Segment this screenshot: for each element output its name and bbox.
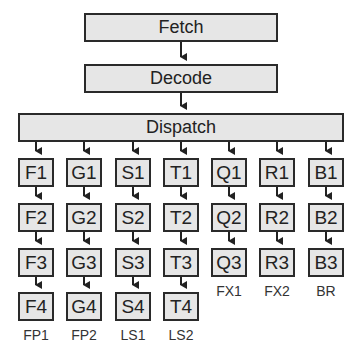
pipeline-stage-box: Q1 xyxy=(211,158,247,187)
dispatch-stage: Dispatch xyxy=(18,113,344,142)
stage-label: G1 xyxy=(71,162,96,184)
pipeline-stage-box: S4 xyxy=(115,292,151,321)
stage-label: S3 xyxy=(121,252,144,274)
pipeline-stage-box: F1 xyxy=(18,158,54,187)
pipeline-stage-box: R1 xyxy=(259,158,295,187)
pipeline-stage-box: G1 xyxy=(66,158,102,187)
unit-column-label: FX2 xyxy=(252,283,302,299)
unit-column-label: FP1 xyxy=(11,327,61,343)
pipeline-stage-box: R3 xyxy=(259,248,295,277)
pipeline-stage-box: T1 xyxy=(163,158,199,187)
stage-label: B1 xyxy=(314,162,337,184)
pipeline-stage-box: B3 xyxy=(308,248,344,277)
dispatch-label: Dispatch xyxy=(146,117,216,138)
pipeline-stage-box: B1 xyxy=(308,158,344,187)
stage-label: B3 xyxy=(314,252,337,274)
stage-label: Q2 xyxy=(216,207,241,229)
stage-label: R1 xyxy=(265,162,289,184)
stage-label: G3 xyxy=(71,252,96,274)
stage-label: G4 xyxy=(71,296,96,318)
stage-label: Q3 xyxy=(216,252,241,274)
fetch-label: Fetch xyxy=(158,17,203,38)
stage-label: F2 xyxy=(25,207,47,229)
pipeline-stage-box: G3 xyxy=(66,248,102,277)
pipeline-stage-box: Q3 xyxy=(211,248,247,277)
stage-label: R3 xyxy=(265,252,289,274)
pipeline-stage-box: S3 xyxy=(115,248,151,277)
unit-column-label: BR xyxy=(301,283,351,299)
stage-label: F3 xyxy=(25,252,47,274)
pipeline-stage-box: Q2 xyxy=(211,203,247,232)
stage-label: F1 xyxy=(25,162,47,184)
stage-label: T4 xyxy=(170,296,192,318)
stage-label: S2 xyxy=(121,207,144,229)
stage-label: S4 xyxy=(121,296,144,318)
pipeline-stage-box: F2 xyxy=(18,203,54,232)
unit-column-label: FX1 xyxy=(204,283,254,299)
pipeline-stage-box: G4 xyxy=(66,292,102,321)
pipeline-stage-box: T4 xyxy=(163,292,199,321)
pipeline-stage-box: F4 xyxy=(18,292,54,321)
pipeline-stage-box: R2 xyxy=(259,203,295,232)
stage-label: T1 xyxy=(170,162,192,184)
pipeline-stage-box: G2 xyxy=(66,203,102,232)
stage-label: B2 xyxy=(314,207,337,229)
pipeline-stage-box: F3 xyxy=(18,248,54,277)
fetch-stage: Fetch xyxy=(84,13,278,42)
stage-label: T2 xyxy=(170,207,192,229)
decode-stage: Decode xyxy=(84,64,278,93)
stage-label: G2 xyxy=(71,207,96,229)
stage-label: Q1 xyxy=(216,162,241,184)
stage-label: R2 xyxy=(265,207,289,229)
pipeline-stage-box: T3 xyxy=(163,248,199,277)
unit-column-label: LS2 xyxy=(156,327,206,343)
stage-label: T3 xyxy=(170,252,192,274)
unit-column-label: FP2 xyxy=(59,327,109,343)
pipeline-stage-box: B2 xyxy=(308,203,344,232)
stage-label: S1 xyxy=(121,162,144,184)
pipeline-stage-box: S2 xyxy=(115,203,151,232)
decode-label: Decode xyxy=(150,68,212,89)
pipeline-stage-box: S1 xyxy=(115,158,151,187)
pipeline-stage-box: T2 xyxy=(163,203,199,232)
stage-label: F4 xyxy=(25,296,47,318)
unit-column-label: LS1 xyxy=(108,327,158,343)
